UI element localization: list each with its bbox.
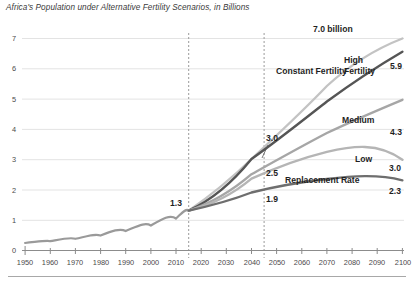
label-constant-fertility: Constant Fertility xyxy=(276,66,347,77)
annotation-2050-medium: 2.5 xyxy=(266,168,278,178)
series-line-historical xyxy=(25,210,189,243)
annotation-2050-constant: 3.0 xyxy=(266,133,278,143)
label-medium-text: Medium xyxy=(342,115,374,125)
label-low-endpoint: 3.0 xyxy=(389,163,401,173)
y-tick-1: 1 xyxy=(4,216,16,225)
label-medium: Medium xyxy=(342,115,374,126)
x-tick-2100: 2100 xyxy=(389,258,414,267)
x-tick-1970: 1970 xyxy=(61,258,89,267)
label-constant-fertility-text: Constant Fertility xyxy=(276,66,347,76)
label-medium-endpoint: 4.3 xyxy=(390,127,402,137)
x-tick-1960: 1960 xyxy=(36,258,64,267)
y-tick-7: 7 xyxy=(4,34,16,43)
label-high-fertility: High Fertility xyxy=(344,55,390,76)
x-tick-2080: 2080 xyxy=(338,258,366,267)
x-tick-2070: 2070 xyxy=(313,258,341,267)
x-tick-2010: 2010 xyxy=(162,258,190,267)
annotation-2050-replacement: 1.9 xyxy=(266,194,278,204)
x-axis xyxy=(22,246,404,255)
x-tick-2090: 2090 xyxy=(363,258,391,267)
x-tick-1950: 1950 xyxy=(11,258,39,267)
label-high-fertility-endpoint: 5.9 xyxy=(390,61,402,71)
x-tick-1990: 1990 xyxy=(112,258,140,267)
x-tick-1980: 1980 xyxy=(87,258,115,267)
x-tick-2040: 2040 xyxy=(238,258,266,267)
label-high-fertility-text: High Fertility xyxy=(344,55,375,76)
y-tick-0: 0 xyxy=(4,246,16,255)
chart-figure: Africa's Population under Alternative Fe… xyxy=(0,0,414,284)
label-constant-fertility-endpoint: 7.0 billion xyxy=(313,24,353,34)
label-low-text: Low xyxy=(355,154,372,164)
label-replacement-rate-endpoint: 2.3 xyxy=(389,186,401,196)
annotation-2020-value: 1.3 xyxy=(170,198,182,208)
label-replacement-rate-text: Replacement Rate xyxy=(285,175,360,185)
y-tick-4: 4 xyxy=(4,125,16,134)
y-tick-3: 3 xyxy=(4,155,16,164)
x-tick-2050: 2050 xyxy=(263,258,291,267)
bottom-divider xyxy=(8,276,406,277)
x-tick-2020: 2020 xyxy=(187,258,215,267)
x-tick-2030: 2030 xyxy=(212,258,240,267)
y-tick-2: 2 xyxy=(4,186,16,195)
x-tick-2060: 2060 xyxy=(288,258,316,267)
x-tick-2000: 2000 xyxy=(137,258,165,267)
chart-plot-area xyxy=(0,0,414,284)
y-tick-5: 5 xyxy=(4,95,16,104)
y-tick-6: 6 xyxy=(4,64,16,73)
label-low: Low xyxy=(355,154,372,165)
label-replacement-rate: Replacement Rate xyxy=(285,175,360,186)
